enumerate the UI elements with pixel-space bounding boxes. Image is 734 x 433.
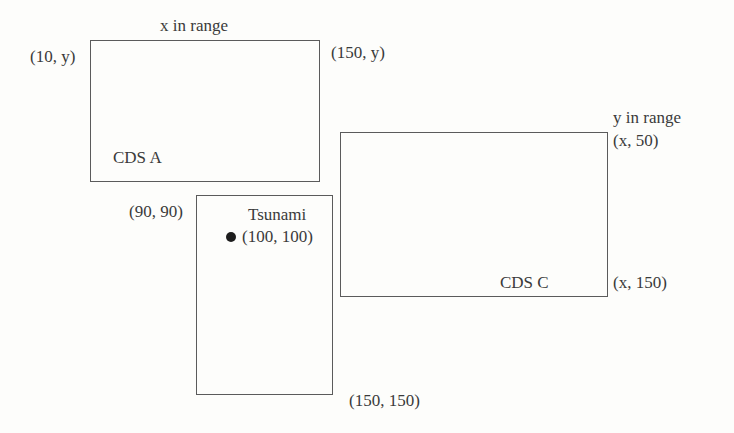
corner-label-x-150: (x, 150) [613,273,667,293]
tsunami-rectangle [196,195,333,395]
cds-c-label: CDS C [500,273,549,293]
corner-label-10-y: (10, y) [30,47,75,67]
cds-c-rectangle [340,132,608,297]
y-in-range-label: y in range [613,108,681,128]
x-in-range-label: x in range [160,16,228,36]
corner-label-90-90: (90, 90) [129,202,183,222]
corner-label-150-y: (150, y) [331,43,385,63]
diagram-canvas: x in range (10, y) (150, y) CDS A (90, 9… [0,0,734,433]
tsunami-label: Tsunami [248,205,306,225]
corner-label-150-150: (150, 150) [349,391,420,411]
corner-label-x-50: (x, 50) [613,131,658,151]
point-label-100-100: (100, 100) [242,227,313,247]
cds-a-label: CDS A [113,148,162,168]
tsunami-point-marker [226,232,236,242]
